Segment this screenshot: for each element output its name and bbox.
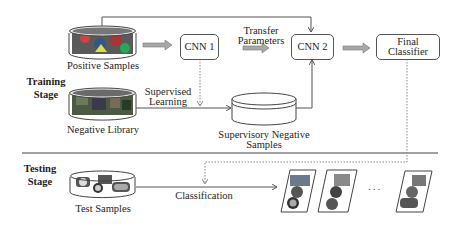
- cnn2-node: CNN 2: [291, 34, 334, 60]
- training-stage-line2: Stage: [25, 88, 67, 101]
- output-panel-2: [318, 170, 357, 212]
- supervisory-to-cnn2-edge: [296, 60, 312, 108]
- block-arrow-to-final-classifier: [343, 43, 370, 53]
- positive-samples-label: Positive Samples: [64, 61, 142, 71]
- cnn1-node: CNN 1: [180, 34, 219, 60]
- supervisory-negative-line2: Samples: [214, 140, 314, 150]
- transfer-parameters-line2: Parameters: [236, 36, 286, 46]
- test-samples-label: Test Samples: [70, 204, 136, 214]
- cnn2-label: CNN 2: [297, 42, 327, 52]
- supervised-learning-line2: Learning: [142, 97, 194, 107]
- negative-library-cylinder: [69, 88, 136, 120]
- testing-stage-line2: Stage: [22, 175, 58, 188]
- final-classifier-node: Final Classifier: [376, 34, 440, 60]
- test-samples-cylinder: [70, 171, 135, 198]
- training-stage-line1: Training: [25, 75, 67, 88]
- supervisory-negative-cylinder: [232, 93, 296, 125]
- supervised-learning-label: Supervised Learning: [142, 87, 194, 107]
- testing-stage-label: Testing Stage: [22, 162, 58, 188]
- final-classifier-line2: Classifier: [388, 47, 428, 57]
- transfer-parameters-label: Transfer Parameters: [236, 26, 286, 46]
- block-arrow-to-cnn1: [143, 40, 172, 50]
- positive-samples-cylinder: [69, 26, 136, 59]
- output-panel-1: [281, 170, 316, 212]
- cnn1-label: CNN 1: [184, 42, 214, 52]
- negative-library-label: Negative Library: [64, 125, 142, 135]
- testing-stage-line1: Testing: [22, 162, 58, 175]
- training-stage-label: Training Stage: [25, 75, 67, 101]
- output-panel-n: [396, 171, 432, 212]
- supervisory-negative-label: Supervisory Negative Samples: [214, 130, 314, 150]
- classification-label: Classification: [172, 191, 236, 201]
- ellipsis: ...: [368, 180, 382, 192]
